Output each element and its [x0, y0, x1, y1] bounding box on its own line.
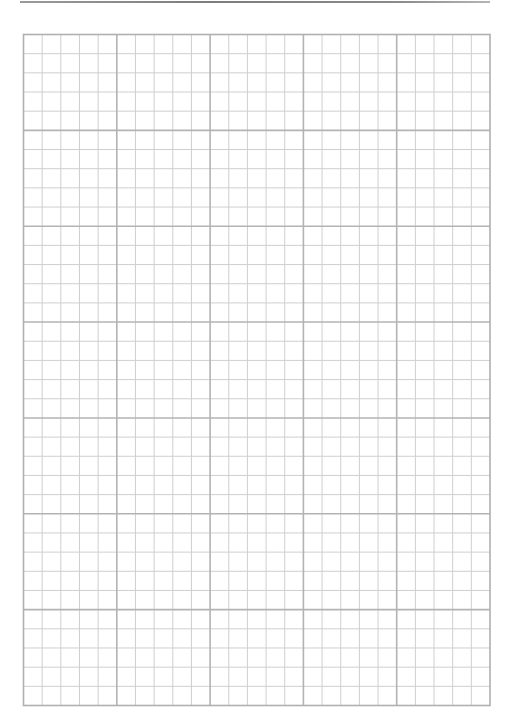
minor-grid-lines — [24, 35, 491, 706]
grid-border — [24, 35, 491, 706]
major-grid-lines — [24, 35, 491, 706]
graph-paper-grid — [0, 0, 511, 726]
